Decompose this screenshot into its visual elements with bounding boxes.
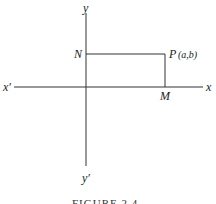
label-y-prime: y′: [81, 171, 90, 185]
label-N: N: [73, 47, 83, 61]
coordinate-diagram: y y′ x x′ N M P (a,b) FIGURE 2.4: [0, 0, 216, 204]
figure-caption: FIGURE 2.4: [72, 197, 138, 204]
label-P-coords: (a,b): [178, 49, 198, 61]
label-y: y: [82, 1, 89, 15]
label-x: x: [205, 80, 212, 94]
label-x-prime: x′: [2, 80, 11, 94]
label-P: P: [168, 47, 177, 61]
label-M: M: [159, 89, 171, 103]
